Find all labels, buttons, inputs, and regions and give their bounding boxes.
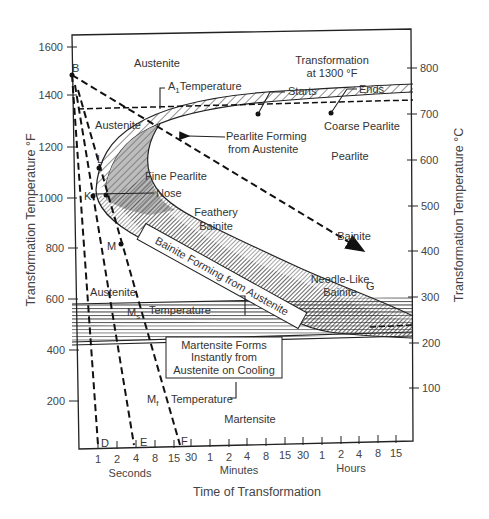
point-e: E [140,436,147,448]
svg-text:15: 15 [168,452,180,464]
svg-text:8: 8 [375,447,381,459]
svg-text:500: 500 [421,200,439,212]
left-axis: 1600 1400 1200 1000 800 600 400 200 Tran… [24,41,79,407]
svg-text:2: 2 [114,453,120,465]
label-austenite-top: Austenite [134,57,180,69]
label-needle-bainite: Bainite [323,286,357,298]
label-fine-pearlite: Fine Pearlite [145,170,207,182]
svg-text:800: 800 [420,62,438,74]
martensite-forms-box: Martensite Forms Instantly from Austenit… [166,337,282,378]
right-axis: 800 700 600 500 400 300 200 100 Transfor… [407,62,466,394]
a1-leader [160,88,165,109]
nose-label: Nose [156,187,182,199]
martensite-box-line1: Martensite Forms [181,339,267,351]
svg-text:4: 4 [244,450,250,462]
right-axis-title: Transformation Temperature °C [452,128,466,303]
martensite-box-line3: Austenite on Cooling [173,364,275,376]
left-axis-title: Transformation Temperature °F [24,133,38,306]
point-l: L [97,153,103,165]
point-m: M [107,240,116,252]
svg-text:1: 1 [95,453,101,465]
mf-label: Mf [147,393,159,408]
x-axis-title: Time of Transformation [193,485,321,499]
svg-text:2: 2 [338,448,344,460]
svg-text:600: 600 [420,154,438,166]
svg-text:4: 4 [133,452,139,464]
svg-text:1600: 1600 [39,41,63,53]
svg-text:8: 8 [263,450,269,462]
label-coarse-pearlite: Coarse Pearlite [324,120,400,132]
svg-text:800: 800 [46,242,64,254]
ms-temperature-label: Temperature [149,304,211,316]
label-martensite: Martensite [224,413,275,425]
svg-text:200: 200 [47,395,65,407]
pearlite-forming-label-2: from Austenite [228,143,298,155]
svg-text:15: 15 [279,449,291,461]
point-d: D [101,437,109,449]
svg-text:700: 700 [420,108,438,120]
martensite-box-line2: Instantly from [191,351,257,363]
svg-text:8: 8 [152,452,158,464]
label-feathery: Feathery [194,206,238,218]
svg-text:1400: 1400 [39,89,63,101]
svg-text:2: 2 [226,451,232,463]
svg-text:1200: 1200 [39,141,63,153]
svg-text:30: 30 [297,449,309,461]
svg-text:100: 100 [422,382,440,394]
svg-text:4: 4 [356,448,362,460]
ttt-diagram: Bainite Forming from Austenite Martensit… [0,0,489,519]
label-pearlite: Pearlite [331,150,368,162]
svg-text:400: 400 [47,344,65,356]
label-bainite: Bainite [337,230,371,242]
mf-temperature-label: Temperature [171,393,233,405]
label-needle-like: Needle-Like [311,273,370,285]
point-b: B [72,62,79,74]
pearlite-forming-label-1: Pearlite Forming [226,130,307,142]
svg-text:1: 1 [207,451,213,463]
transformation-label-2: at 1300 °F [307,67,358,79]
x-group-seconds: Seconds [109,467,152,479]
label-austenite-mid: Austenite [95,119,141,131]
pearlite-forming-leader [188,136,225,137]
ends-label: Ends [359,83,385,95]
svg-text:15: 15 [390,447,402,459]
a1-temperature-label: A1Temperature [168,80,242,95]
starts-label: Starts [288,85,317,97]
svg-text:30: 30 [185,451,197,463]
svg-text:400: 400 [421,245,439,257]
point-f: F [181,435,188,447]
label-austenite-low: Austenite [90,286,136,298]
svg-text:600: 600 [46,293,64,305]
svg-text:300: 300 [421,291,439,303]
x-group-hours: Hours [336,462,366,474]
svg-text:1: 1 [319,449,325,461]
svg-text:200: 200 [422,337,440,349]
label-feathery-bainite: Bainite [199,220,233,232]
transformation-label-1: Transformation [295,54,369,66]
point-g: G [366,280,375,292]
svg-text:1000: 1000 [39,192,63,204]
point-k: K [84,190,92,202]
x-group-minutes: Minutes [220,464,259,476]
